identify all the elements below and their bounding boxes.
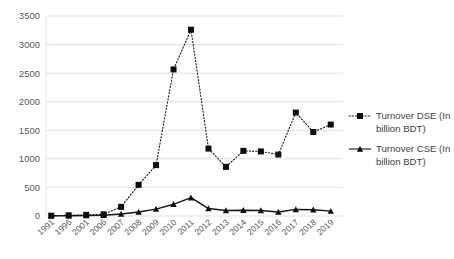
y-axis-tick-label: 2500	[19, 68, 40, 79]
x-axis-tick-label: 2016	[262, 217, 283, 237]
x-axis-tick-label: 2008	[123, 217, 144, 237]
data-point-marker-square	[188, 27, 194, 33]
x-axis-tick-label: 2009	[140, 217, 161, 237]
legend-marker-square	[357, 113, 363, 119]
data-point-marker-square	[293, 110, 299, 116]
legend-item-label-line1: Turnover DSE (In	[376, 110, 450, 121]
data-point-marker-square	[240, 148, 246, 154]
y-axis-tick-label: 0	[35, 210, 40, 221]
data-point-marker-square	[223, 164, 229, 170]
legend-item-label-line2: billion BDT)	[376, 123, 426, 134]
x-axis-tick-label: 2019	[315, 217, 336, 237]
x-axis-tick-label: 2006	[88, 217, 109, 237]
y-axis-tick-label: 1500	[19, 125, 40, 136]
y-axis-tick-label: 1000	[19, 153, 40, 164]
y-axis-tick-label: 3500	[19, 10, 40, 21]
data-point-marker-square	[171, 66, 177, 72]
x-axis-tick-label: 2012	[192, 217, 213, 237]
data-point-marker-square	[258, 148, 264, 154]
legend-item-label-line2: billion BDT)	[376, 156, 426, 167]
y-axis-tick-label: 2000	[19, 96, 40, 107]
y-axis-tick-label: 3000	[19, 39, 40, 50]
chart-legend: Turnover DSE (Inbillion BDT)Turnover CSE…	[349, 110, 450, 167]
series-markers-group	[48, 27, 334, 219]
data-point-marker-square	[118, 204, 124, 210]
x-axis-tick-label: 2011	[175, 217, 196, 237]
data-point-marker-square	[275, 152, 281, 158]
data-point-marker-square	[153, 162, 159, 168]
chart-container: 0500100015002000250030003500 19911996200…	[0, 0, 454, 259]
data-point-marker-square	[136, 182, 142, 188]
data-point-marker-square	[328, 122, 334, 128]
legend-item-label-line1: Turnover CSE (In	[376, 143, 450, 154]
gridlines-group	[46, 16, 343, 216]
data-point-marker-square	[310, 129, 316, 135]
series-line-cse	[51, 198, 331, 216]
x-axis-tick-label: 2018	[297, 217, 318, 237]
series-lines-group	[51, 30, 331, 216]
x-axis-tick-label: 2010	[157, 217, 178, 237]
x-axis-tick-label: 1996	[53, 217, 74, 237]
line-chart: 0500100015002000250030003500 19911996200…	[0, 0, 454, 259]
x-axis-tick-label: 2017	[280, 217, 301, 237]
x-axis-tick-label: 2001	[70, 217, 91, 237]
data-point-marker-triangle	[188, 195, 194, 201]
data-point-marker-square	[205, 146, 211, 152]
y-axis-tick-labels: 0500100015002000250030003500	[19, 10, 40, 221]
x-axis-tick-label: 2013	[210, 217, 231, 237]
x-axis-tick-label: 2007	[105, 217, 126, 237]
x-axis-tick-label: 2015	[245, 217, 266, 237]
y-axis-tick-label: 500	[24, 182, 40, 193]
x-axis-tick-labels: 1991199620012006200720082009201020112012…	[35, 217, 336, 237]
x-axis-tick-label: 2014	[227, 217, 248, 237]
